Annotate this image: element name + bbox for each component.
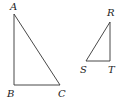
triangle-rst bbox=[86, 22, 110, 61]
triangle-abc bbox=[14, 14, 60, 85]
vertex-label-s: S bbox=[80, 64, 87, 75]
triangles-diagram: A B C R S T bbox=[0, 0, 123, 100]
vertex-label-b: B bbox=[6, 88, 14, 99]
vertex-label-c: C bbox=[58, 88, 66, 99]
vertex-label-r: R bbox=[106, 7, 115, 18]
vertex-label-a: A bbox=[9, 1, 17, 12]
vertex-label-t: T bbox=[108, 64, 116, 75]
